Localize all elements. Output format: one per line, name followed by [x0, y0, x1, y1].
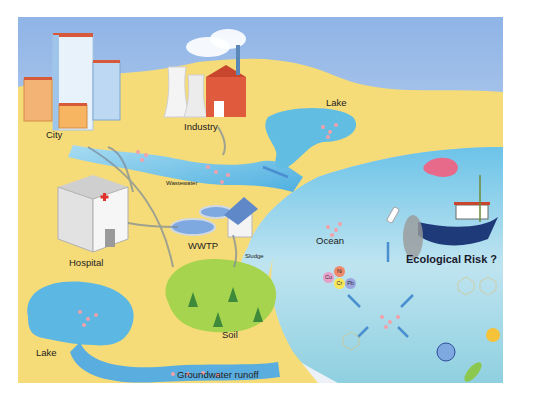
- label-groundwater-runoff: Groundwater runoff: [177, 369, 259, 380]
- label-hospital: Hospital: [69, 257, 103, 268]
- hospital-building: [58, 175, 128, 252]
- label-sludge: Sludge: [245, 253, 264, 259]
- metal-pb: Pb: [345, 278, 356, 289]
- label-lake-top: Lake: [326, 97, 347, 108]
- label-lake-bottom: Lake: [36, 347, 57, 358]
- metal-cr: Cr: [334, 278, 345, 289]
- virus-icon: [437, 343, 455, 361]
- microbe-icon: [486, 328, 500, 342]
- metal-ni: Ni: [334, 266, 345, 277]
- label-industry: Industry: [184, 121, 218, 132]
- label-soil: Soil: [222, 329, 238, 340]
- label-ocean: Ocean: [316, 235, 344, 246]
- label-ecological-risk: Ecological Risk ?: [406, 253, 497, 265]
- pollution-pathways-diagram: City Industry Lake Wastewater WWTP Hospi…: [18, 17, 503, 383]
- label-wastewater: Wastewater: [166, 180, 197, 186]
- label-city: City: [46, 129, 62, 140]
- metal-cu: Cu: [323, 272, 334, 283]
- label-wwtp: WWTP: [188, 240, 218, 251]
